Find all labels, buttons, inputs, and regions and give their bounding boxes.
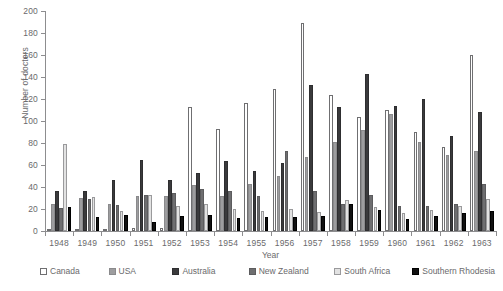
bar	[305, 157, 309, 231]
x-axis-tick-mark	[158, 231, 159, 236]
bar	[394, 106, 398, 231]
legend-item[interactable]: Canada	[40, 266, 109, 276]
bar	[470, 55, 474, 231]
bar	[188, 107, 192, 231]
bar	[200, 189, 204, 231]
x-axis-end-tick	[496, 231, 497, 236]
x-axis-tick-label: 1959	[355, 238, 383, 248]
bar	[333, 142, 337, 231]
x-axis-tick-mark	[468, 231, 469, 236]
bar	[208, 215, 212, 232]
bar	[446, 155, 450, 231]
bar	[345, 200, 349, 231]
bar-group	[101, 11, 129, 231]
legend-swatch-icon	[40, 268, 47, 275]
x-axis-tick: 1952	[158, 231, 186, 248]
x-axis-tick-mark	[101, 231, 102, 236]
y-axis-tick-label: 140	[0, 72, 45, 82]
bar-group	[271, 11, 299, 231]
bar	[313, 191, 317, 231]
legend-swatch-icon	[412, 268, 419, 275]
bar-group	[327, 11, 355, 231]
x-axis-tick: 1953	[186, 231, 214, 248]
x-axis-tick-label: 1963	[468, 238, 496, 248]
bar	[196, 173, 200, 231]
bar	[426, 206, 430, 231]
bar	[92, 197, 96, 231]
bar	[176, 206, 180, 231]
bar	[329, 95, 333, 231]
x-axis-tick: 1963	[468, 231, 496, 248]
bar	[357, 117, 361, 231]
y-axis-tick-label: 80	[0, 138, 45, 148]
x-axis-tick-mark	[45, 231, 46, 236]
x-axis-tick: 1957	[299, 231, 327, 248]
bar	[233, 209, 237, 231]
legend-item-label: USA	[119, 266, 136, 276]
legend-item[interactable]: Southern Rhodesia	[412, 266, 495, 276]
x-axis-ticks: 1948194919501951195219531954195519561957…	[45, 231, 496, 248]
legend-swatch-icon	[334, 268, 341, 275]
bar	[55, 191, 59, 231]
bar	[164, 196, 168, 231]
bar	[192, 185, 196, 231]
bar-group	[73, 11, 101, 231]
y-axis-tick-label: 180	[0, 28, 45, 38]
x-axis-tick-mark	[271, 231, 272, 236]
x-axis-tick: 1961	[411, 231, 439, 248]
bar	[108, 204, 112, 232]
bar	[120, 211, 124, 231]
bar-group	[383, 11, 411, 231]
legend-item[interactable]: USA	[109, 266, 173, 276]
legend-item[interactable]: New Zealand	[249, 266, 335, 276]
x-axis-tick-label: 1951	[130, 238, 158, 248]
x-axis-tick-mark	[383, 231, 384, 236]
bar	[389, 114, 393, 231]
bar	[341, 204, 345, 232]
x-axis-tick-label: 1957	[299, 238, 327, 248]
bar	[63, 144, 67, 231]
y-axis-tick-label: 100	[0, 116, 45, 126]
x-axis-tick-label: 1962	[440, 238, 468, 248]
x-axis-tick-label: 1958	[327, 238, 355, 248]
legend-item[interactable]: South Africa	[334, 266, 412, 276]
bar-group	[299, 11, 327, 231]
x-axis-tick: 1958	[327, 231, 355, 248]
bar	[398, 206, 402, 231]
bar	[478, 112, 482, 231]
bar	[248, 184, 252, 231]
bar	[148, 195, 152, 231]
legend-item[interactable]: Australia	[172, 266, 248, 276]
x-axis-tick-mark	[186, 231, 187, 236]
bar-group	[186, 11, 214, 231]
x-axis-tick-label: 1950	[101, 238, 129, 248]
legend-item-label: Canada	[50, 266, 80, 276]
bar	[273, 89, 277, 231]
bar	[124, 215, 128, 232]
y-axis-tick-label: 0	[0, 226, 45, 236]
bar	[450, 136, 454, 231]
x-axis-tick-label: 1949	[73, 238, 101, 248]
bar	[474, 151, 478, 231]
x-axis-tick-mark	[214, 231, 215, 236]
bar	[378, 210, 382, 231]
bar	[172, 193, 176, 232]
x-axis-tick-label: 1948	[45, 238, 73, 248]
x-axis-tick-mark	[327, 231, 328, 236]
bar	[289, 209, 293, 231]
bar	[293, 217, 297, 231]
bar	[281, 163, 285, 231]
bar	[402, 213, 406, 231]
bar-group	[411, 11, 439, 231]
legend-item-label: South Africa	[344, 266, 390, 276]
y-axis-tick-label: 160	[0, 50, 45, 60]
bar	[414, 132, 418, 231]
x-axis-title: Year	[45, 250, 496, 260]
bar-group	[440, 11, 468, 231]
bar	[136, 196, 140, 231]
bar	[321, 216, 325, 231]
bar	[244, 103, 248, 231]
bar	[385, 110, 389, 231]
x-axis-tick-label: 1952	[158, 238, 186, 248]
y-axis-tick-label: 120	[0, 94, 45, 104]
